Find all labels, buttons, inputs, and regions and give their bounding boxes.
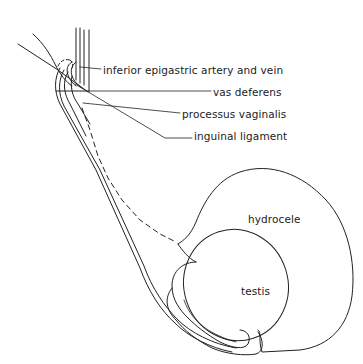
label-testis: testis [241, 286, 270, 297]
diagram-canvas: inferior epigastric artery and vein vas … [0, 0, 363, 364]
hydrocele-sac [178, 168, 353, 352]
label-processus-vaginalis: processus vaginalis [182, 109, 286, 120]
leader-lines [75, 67, 211, 138]
label-hydrocele: hydrocele [248, 214, 301, 225]
processus-vaginalis-dashed [82, 108, 176, 242]
label-vas-deferens: vas deferens [213, 87, 282, 98]
label-inferior-epigastric: inferior epigastric artery and vein [103, 65, 283, 76]
anatomy-drawing [0, 0, 363, 364]
epigastric-vessels [76, 28, 89, 91]
label-inguinal-ligament: inguinal ligament [194, 131, 287, 142]
